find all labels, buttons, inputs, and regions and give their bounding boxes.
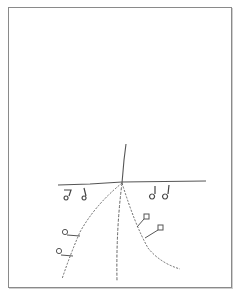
dashed-line-right bbox=[122, 183, 180, 269]
horizontal-baseline bbox=[58, 181, 206, 185]
note-glyph-icon bbox=[150, 186, 155, 199]
note-glyph-icon bbox=[163, 185, 169, 199]
sketch-canvas bbox=[0, 0, 239, 301]
callout-marker-icon bbox=[145, 225, 163, 238]
dashed-line-center bbox=[117, 183, 122, 281]
callout-marker-icon bbox=[137, 214, 149, 227]
vertical-line bbox=[122, 144, 126, 183]
callout-marker-icon bbox=[62, 229, 80, 236]
dashed-line-left bbox=[62, 183, 122, 279]
note-glyph-icon bbox=[82, 188, 86, 200]
note-glyph-icon bbox=[64, 190, 71, 200]
callout-marker-icon bbox=[56, 248, 73, 256]
